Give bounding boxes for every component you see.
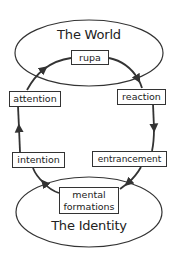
node-rupa: rupa (71, 50, 109, 65)
mental-formations-line2: formations (60, 201, 118, 213)
arrow-entrancement-to-mental-formations (128, 167, 141, 183)
world-title: The World (54, 27, 124, 42)
arrow-mental-formations-to-intention (44, 183, 59, 193)
node-mental-formations: mental formations (59, 187, 119, 214)
node-intention: intention (12, 152, 65, 168)
arrow-intention-to-attention (19, 128, 20, 152)
mental-formations-line1: mental (60, 189, 118, 201)
node-attention: attention (9, 91, 61, 107)
identity-title: The Identity (44, 218, 134, 233)
node-entrancement: entrancement (92, 151, 167, 167)
arrow-rupa-to-reaction (109, 58, 138, 79)
arrow-reaction-to-entrancement (153, 104, 154, 128)
node-reaction: reaction (117, 89, 166, 105)
